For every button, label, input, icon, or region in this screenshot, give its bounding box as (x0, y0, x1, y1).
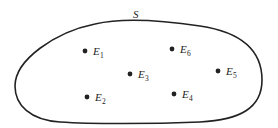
element-letter: E (179, 43, 187, 55)
point-marker (170, 47, 175, 52)
point-marker (128, 72, 133, 77)
element-subscript: 4 (189, 94, 193, 103)
set-diagram: S E 1 E 2 E 3 E 4 E 5 E 6 (0, 0, 278, 128)
element-subscript: 2 (102, 97, 106, 106)
element-subscript: 1 (100, 51, 104, 60)
element-letter: E (181, 88, 189, 100)
element-letter: E (225, 65, 233, 77)
element-e5: E 5 (216, 65, 237, 80)
element-subscript: 6 (187, 49, 191, 58)
element-e4: E 4 (172, 88, 193, 103)
element-e1: E 1 (83, 45, 104, 60)
point-marker (216, 69, 221, 74)
set-label: S (133, 8, 139, 20)
point-marker (172, 92, 177, 97)
element-subscript: 3 (145, 74, 149, 83)
element-e2: E 2 (85, 91, 106, 106)
element-letter: E (92, 45, 100, 57)
element-letter: E (94, 91, 102, 103)
element-e3: E 3 (128, 68, 149, 83)
element-subscript: 5 (233, 71, 237, 80)
element-e6: E 6 (170, 43, 191, 58)
element-letter: E (137, 68, 145, 80)
point-marker (85, 95, 90, 100)
point-marker (83, 49, 88, 54)
